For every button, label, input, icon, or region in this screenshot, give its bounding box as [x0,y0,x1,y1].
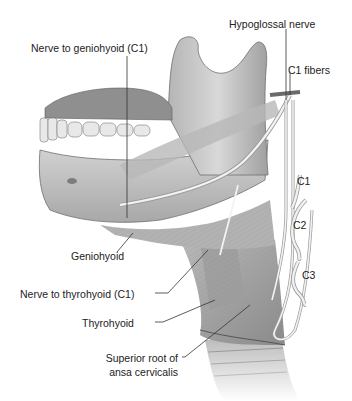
trachea [205,340,300,401]
label-hypoglossal-nerve: Hypoglossal nerve [229,18,315,30]
label-c1: C1 [297,175,310,187]
label-superior-root-line1: Superior root of [60,352,178,364]
label-c3: C3 [302,269,315,281]
label-thyrohyoid: Thyrohyoid [82,317,134,329]
label-nerve-to-geniohyoid: Nerve to geniohyoid (C1) [31,42,148,54]
mental-foramen [67,178,77,184]
label-geniohyoid: Geniohyoid [71,250,124,262]
label-superior-root: Superior root of ansa cervicalis [60,352,178,378]
label-c2: C2 [293,219,306,231]
teeth [40,118,150,142]
label-c1-fibers: C1 fibers [288,64,330,76]
label-superior-root-line2: ansa cervicalis [60,366,178,378]
label-nerve-to-thyrohyoid: Nerve to thyrohyoid (C1) [20,288,134,300]
anatomy-illustration [0,0,352,401]
tongue [45,88,172,120]
